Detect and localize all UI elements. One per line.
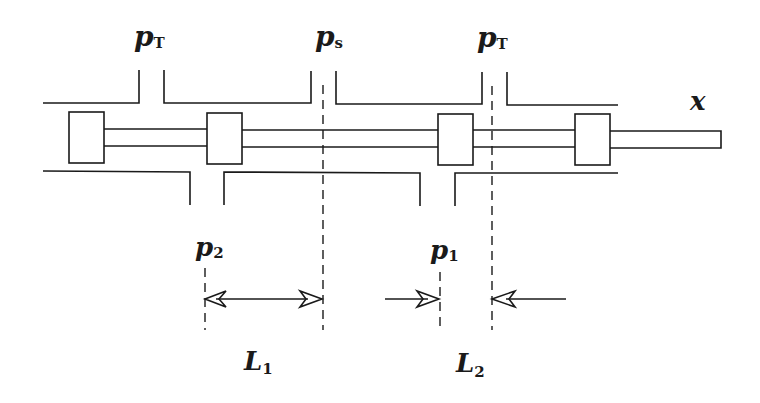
label-port-2: p2 [195,232,224,262]
label-length-1: L1 [243,346,273,378]
label-length-2: L2 [455,348,485,381]
label-tank-right: pT [477,21,509,54]
dimension-l2-arrows [385,291,566,307]
label-tank-left: pT [134,20,166,53]
spool-land-3 [438,114,473,165]
spool-valve-diagram: pT ps pT x p2 p1 L1 L2 [0,0,760,403]
spool-land-2 [207,113,242,164]
dimension-l1-arrow [205,291,322,307]
spool [69,112,721,165]
reference-lines [205,85,492,330]
spool-land-4 [575,114,610,165]
housing-bottom [43,171,618,206]
spool-land-1 [69,112,104,163]
label-port-1: p1 [430,235,459,265]
housing-top [43,70,618,105]
label-displacement-x: x [689,86,706,116]
label-supply: ps [315,20,343,53]
